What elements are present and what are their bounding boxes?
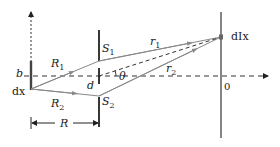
label-origin: 0 (224, 81, 230, 92)
label-dx: dx (12, 85, 26, 98)
theta-arc (115, 71, 116, 76)
label-theta: θ (119, 70, 126, 83)
label-r2: r2 (166, 62, 176, 77)
label-d: d (87, 79, 94, 92)
double-slit-diagram: b dx R1 R2 d S1 S2 θ r1 r2 dIx 0 R (0, 0, 280, 147)
label-S2: S2 (102, 95, 115, 110)
label-dIx: dIx (231, 30, 249, 43)
label-S1: S1 (102, 42, 115, 57)
label-R: R (59, 117, 68, 130)
point-dIx (219, 35, 223, 40)
label-R1: R1 (50, 57, 64, 72)
label-b: b (16, 67, 23, 80)
label-r1: r1 (150, 35, 160, 50)
label-R2: R2 (50, 97, 64, 112)
